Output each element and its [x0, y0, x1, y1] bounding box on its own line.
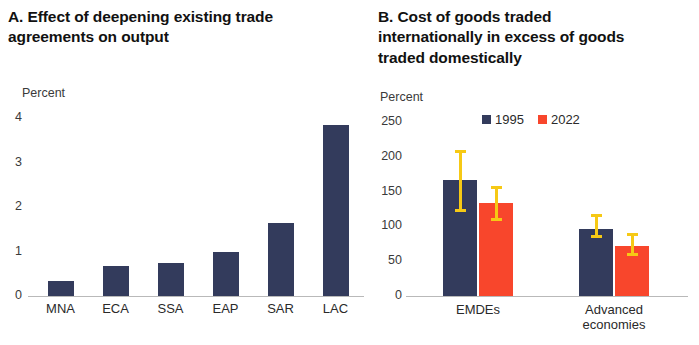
panel-b: B. Cost of goods traded internationally … — [372, 0, 699, 345]
panel-a-ytick-label: 2 — [6, 200, 22, 213]
figure-container: A. Effect of deepening existing trade ag… — [0, 0, 699, 345]
panel-b-error-bar — [459, 151, 462, 210]
panel-a-bar — [48, 281, 74, 296]
panel-a-bar — [103, 266, 129, 296]
panel-a-baseline — [28, 296, 364, 297]
panel-a-ytick-label: 0 — [6, 289, 22, 302]
panel-a-bar — [268, 223, 294, 296]
panel-b-error-cap — [627, 253, 638, 256]
panel-a-ytick-label: 4 — [6, 111, 22, 124]
panel-b-bar — [579, 229, 613, 297]
panel-a-xtick-label: ECA — [88, 302, 144, 317]
panel-a: A. Effect of deepening existing trade ag… — [0, 0, 372, 345]
panel-a-xtick-label: MNA — [33, 302, 89, 317]
panel-b-error-cap — [591, 214, 602, 217]
panel-a-bar — [323, 125, 349, 296]
panel-b-ytick-label: 0 — [372, 289, 402, 302]
panel-b-error-cap — [627, 233, 638, 236]
panel-a-bar — [213, 252, 239, 297]
panel-b-error-cap — [491, 186, 502, 189]
panel-b-ytick-label: 100 — [372, 219, 402, 232]
panel-b-error-cap — [455, 150, 466, 153]
panel-a-xtick-label: SAR — [253, 302, 309, 317]
panel-a-ytick-label: 1 — [6, 245, 22, 258]
panel-b-error-cap — [491, 218, 502, 221]
panel-a-plot: Percent 01234 MNAECASSAEAPSARLAC — [0, 0, 372, 345]
panel-b-baseline — [406, 296, 688, 297]
panel-b-ytick-label: 200 — [372, 150, 402, 163]
panel-b-error-bar — [595, 216, 598, 237]
panel-b-axis-unit: Percent — [380, 90, 423, 104]
panel-b-xtick-label: EMDEs — [418, 303, 538, 318]
panel-b-error-cap — [591, 235, 602, 238]
panel-b-bars — [410, 122, 682, 296]
panel-a-bar — [158, 263, 184, 296]
panel-a-xtick-label: EAP — [198, 302, 254, 317]
panel-b-error-bar — [495, 187, 498, 219]
panel-b-plot: Percent 19952022 050100150200250 EMDEsAd… — [372, 0, 699, 345]
panel-b-error-bar — [631, 235, 634, 254]
panel-b-bar-group — [410, 122, 546, 296]
panel-a-xtick-label: LAC — [308, 302, 364, 317]
panel-b-bar-group — [546, 122, 682, 296]
panel-b-ytick-label: 150 — [372, 185, 402, 198]
panel-b-ytick-label: 50 — [372, 254, 402, 267]
panel-b-ytick-label: 250 — [372, 115, 402, 128]
panel-a-axis-unit: Percent — [22, 86, 65, 100]
panel-a-ytick-label: 3 — [6, 156, 22, 169]
panel-b-error-cap — [455, 209, 466, 212]
panel-a-xtick-label: SSA — [143, 302, 199, 317]
panel-a-bars — [33, 118, 363, 296]
panel-b-xtick-label: Advanced economies — [554, 303, 674, 332]
